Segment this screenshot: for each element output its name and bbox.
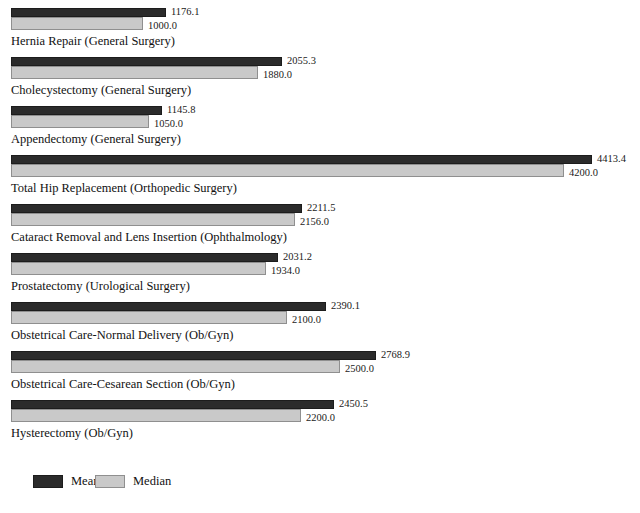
bar-mean <box>11 253 278 262</box>
legend-label: Median <box>133 474 171 489</box>
bar-value-median: 2156.0 <box>300 217 329 227</box>
bar-value-mean: 2055.3 <box>287 56 316 66</box>
bar-value-mean: 1176.1 <box>171 7 200 17</box>
bar-mean <box>11 57 282 66</box>
category-label: Prostatectomy (Urological Surgery) <box>11 279 190 294</box>
bar-value-median: 2200.0 <box>306 413 335 423</box>
category-label: Cataract Removal and Lens Insertion (Oph… <box>11 230 287 245</box>
bar-median <box>11 17 143 30</box>
bar-mean <box>11 155 592 164</box>
bar-value-median: 1880.0 <box>263 70 292 80</box>
bar-value-median: 1050.0 <box>154 119 183 129</box>
category-label: Obstetrical Care-Normal Delivery (Ob/Gyn… <box>11 328 234 343</box>
bar-value-mean: 2450.5 <box>339 399 368 409</box>
legend-swatch-mean <box>33 475 63 488</box>
category-label: Appendectomy (General Surgery) <box>11 132 181 147</box>
bar-group: 2390.12100.0Obstetrical Care-Normal Deli… <box>0 302 640 351</box>
bar-mean <box>11 400 334 409</box>
bar-value-mean: 2031.2 <box>283 252 312 262</box>
category-label: Hysterectomy (Ob/Gyn) <box>11 426 133 441</box>
bar-mean <box>11 8 166 17</box>
bar-median <box>11 213 295 226</box>
category-label: Hernia Repair (General Surgery) <box>11 34 175 49</box>
bar-group: 2211.52156.0Cataract Removal and Lens In… <box>0 204 640 253</box>
bar-value-median: 2100.0 <box>292 315 321 325</box>
bar-median <box>11 66 258 79</box>
bar-group: 2055.31880.0Cholecystectomy (General Sur… <box>0 57 640 106</box>
bar-mean <box>11 204 302 213</box>
bar-median <box>11 115 149 128</box>
bar-group: 2031.21934.0Prostatectomy (Urological Su… <box>0 253 640 302</box>
bar-mean <box>11 302 326 311</box>
bar-value-mean: 1145.8 <box>167 105 196 115</box>
bar-value-mean: 2390.1 <box>331 301 360 311</box>
bar-groups-container: 1176.11000.0Hernia Repair (General Surge… <box>0 8 640 449</box>
bar-median <box>11 164 564 177</box>
category-label: Obstetrical Care-Cesarean Section (Ob/Gy… <box>11 377 235 392</box>
bar-median <box>11 409 301 422</box>
bar-group: 2768.92500.0Obstetrical Care-Cesarean Se… <box>0 351 640 400</box>
bar-value-mean: 2211.5 <box>307 203 336 213</box>
bar-group: 4413.44200.0Total Hip Replacement (Ortho… <box>0 155 640 204</box>
bar-value-median: 1934.0 <box>271 266 300 276</box>
bar-median <box>11 262 266 275</box>
bar-median <box>11 311 287 324</box>
category-label: Total Hip Replacement (Orthopedic Surger… <box>11 181 237 196</box>
bar-group: 2450.52200.0Hysterectomy (Ob/Gyn) <box>0 400 640 449</box>
bar-mean <box>11 351 376 360</box>
bar-value-median: 1000.0 <box>148 21 177 31</box>
category-label: Cholecystectomy (General Surgery) <box>11 83 191 98</box>
bar-chart: 1176.11000.0Hernia Repair (General Surge… <box>0 0 640 513</box>
bar-group: 1176.11000.0Hernia Repair (General Surge… <box>0 8 640 57</box>
legend-swatch-median <box>95 475 125 488</box>
bar-median <box>11 360 340 373</box>
chart-title <box>0 0 640 1</box>
bar-mean <box>11 106 162 115</box>
bar-value-median: 2500.0 <box>345 364 374 374</box>
bar-value-mean: 2768.9 <box>381 350 410 360</box>
bar-value-mean: 4413.4 <box>597 154 626 164</box>
bar-group: 1145.81050.0Appendectomy (General Surger… <box>0 106 640 155</box>
bar-value-median: 4200.0 <box>569 168 598 178</box>
